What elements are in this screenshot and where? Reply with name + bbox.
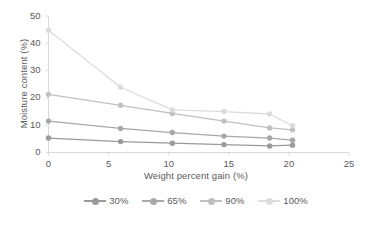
axis-lines [49, 16, 350, 153]
plot-area [0, 0, 392, 225]
legend-dot [208, 198, 215, 205]
data-point [267, 135, 272, 140]
data-point [221, 133, 226, 138]
legend-dot [266, 198, 273, 205]
x-tick-label: 25 [337, 158, 361, 169]
x-tick-label: 0 [37, 158, 61, 169]
data-point [267, 125, 272, 130]
data-point [221, 118, 226, 123]
data-point [170, 107, 175, 112]
data-point [118, 103, 123, 108]
legend-item-90pct[interactable]: 90% [200, 196, 244, 206]
data-point [267, 143, 272, 148]
line-chart: 01020304050 0510152025 Weight percent ga… [0, 0, 392, 225]
legend-marker-icon [200, 196, 222, 205]
data-point [118, 85, 123, 90]
data-point [290, 123, 295, 128]
legend-dot [150, 198, 157, 205]
x-tick-label: 10 [157, 158, 181, 169]
data-point [170, 130, 175, 135]
data-point [118, 126, 123, 131]
legend-dot [92, 198, 99, 205]
legend-item-100pct[interactable]: 100% [258, 196, 307, 206]
x-tick-label: 20 [277, 158, 301, 169]
data-point [118, 139, 123, 144]
legend-marker-icon [142, 196, 164, 205]
legend-label: 30% [109, 196, 128, 206]
data-point [46, 135, 51, 140]
x-tick-label: 15 [217, 158, 241, 169]
series-90pct [46, 92, 295, 133]
series-layer [46, 27, 295, 148]
legend-label: 100% [283, 196, 307, 206]
data-point [170, 141, 175, 146]
data-point [290, 138, 295, 143]
data-point [267, 111, 272, 116]
y-axis-title: Moisture content (%) [18, 9, 29, 159]
data-point [46, 92, 51, 97]
legend-label: 90% [225, 196, 244, 206]
legend-item-65pct[interactable]: 65% [142, 196, 186, 206]
legend-item-30pct[interactable]: 30% [84, 196, 128, 206]
legend-marker-icon [258, 196, 280, 205]
x-tick-label: 5 [97, 158, 121, 169]
data-point [46, 27, 51, 32]
data-point [221, 109, 226, 114]
data-point [290, 142, 295, 147]
legend-marker-icon [84, 196, 106, 205]
data-point [221, 142, 226, 147]
legend-label: 65% [167, 196, 186, 206]
x-axis-title: Weight percent gain (%) [0, 170, 392, 181]
data-point [46, 118, 51, 123]
chart-legend: 30%65%90%100% [0, 196, 392, 206]
